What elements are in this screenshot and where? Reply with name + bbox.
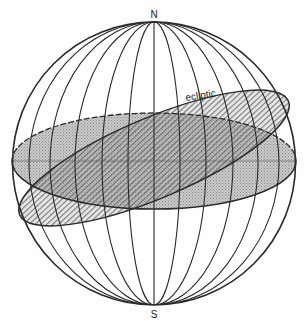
south-pole-label: S [151, 309, 158, 320]
celestial-sphere-diagram: N S ecliptic [0, 0, 308, 328]
north-pole-label: N [150, 9, 157, 20]
